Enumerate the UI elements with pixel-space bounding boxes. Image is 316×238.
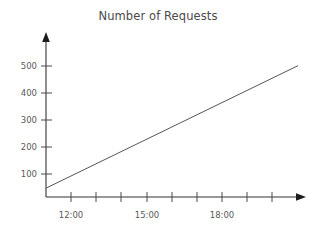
x-tick-label-1800: 18:00 bbox=[210, 210, 235, 220]
x-axis bbox=[46, 193, 306, 201]
chart-plot-area: 500 400 300 200 100 12:00 15:00 18:00 bbox=[0, 0, 316, 238]
y-tick-label-200: 200 bbox=[21, 142, 37, 152]
data-series-number-of-requests bbox=[46, 66, 298, 188]
y-tick-label-100: 100 bbox=[21, 169, 37, 179]
chart-container: Number of Requests 500 400 300 200 100 bbox=[0, 0, 316, 238]
y-tick-label-500: 500 bbox=[21, 61, 37, 71]
y-axis-tick-labels: 500 400 300 200 100 bbox=[21, 61, 37, 179]
y-tick-label-400: 400 bbox=[21, 88, 37, 98]
y-axis bbox=[42, 32, 50, 197]
x-tick-label-1200: 12:00 bbox=[59, 210, 84, 220]
x-tick-label-1500: 15:00 bbox=[135, 210, 160, 220]
x-axis-tick-labels: 12:00 15:00 18:00 bbox=[59, 210, 235, 220]
y-axis-arrow-icon bbox=[42, 32, 50, 42]
series-line-number-of-requests bbox=[46, 66, 298, 188]
x-axis-arrow-icon bbox=[296, 193, 306, 201]
y-tick-label-300: 300 bbox=[21, 115, 37, 125]
